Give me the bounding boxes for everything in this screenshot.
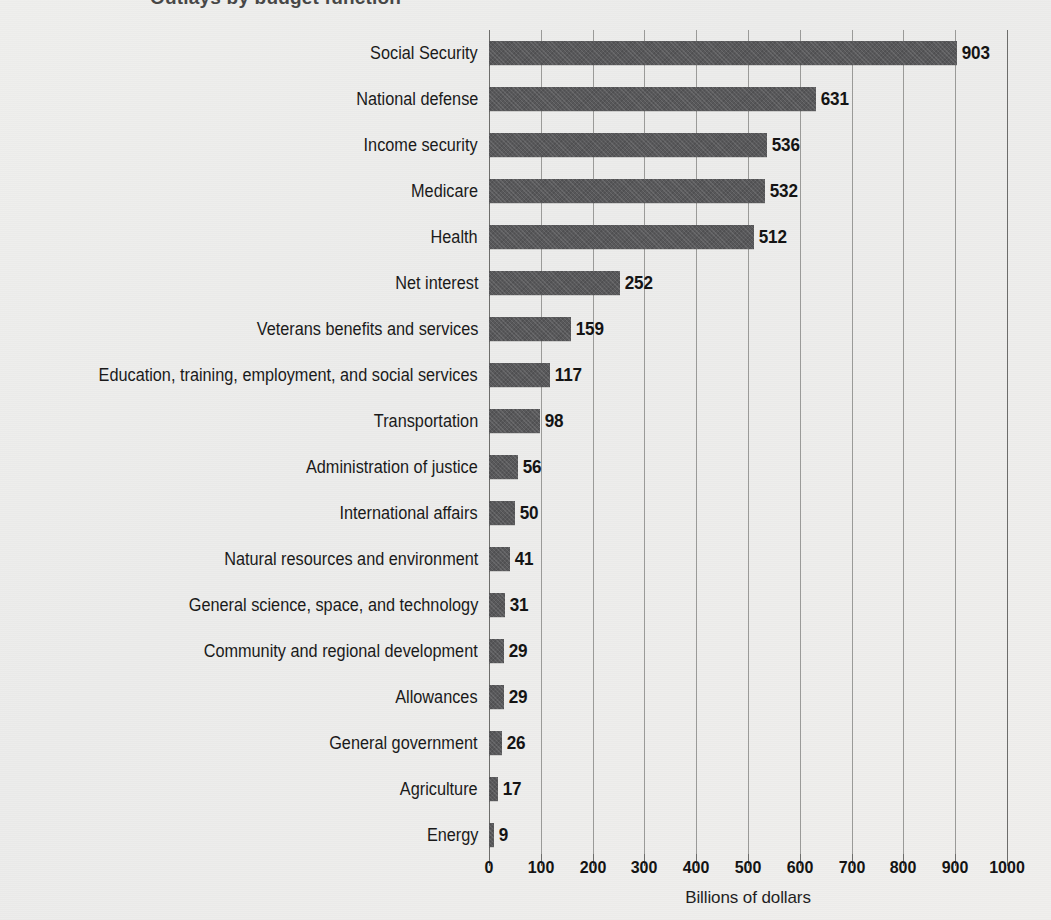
category-label-wrap: Natural resources and environment xyxy=(0,547,478,571)
chart-title: Outlays by budget function xyxy=(150,0,401,9)
category-label-wrap: Energy xyxy=(0,823,478,847)
bar xyxy=(489,317,571,341)
bar-value-label: 117 xyxy=(550,363,582,387)
category-label-wrap: General government xyxy=(0,731,478,755)
category-label-wrap: Health xyxy=(0,225,478,249)
category-label: Community and regional development xyxy=(204,641,478,662)
category-label: Natural resources and environment xyxy=(224,549,478,570)
x-tick-1000: 1000 xyxy=(989,858,1025,878)
bar xyxy=(489,225,754,249)
bar xyxy=(489,685,504,709)
bar-row: Education, training, employment, and soc… xyxy=(489,352,1007,398)
bar-value-label: 41 xyxy=(510,547,533,571)
plot-area: Social Security903National defense631Inc… xyxy=(489,30,1007,854)
category-label-wrap: General science, space, and technology xyxy=(0,593,478,617)
x-tick-800: 800 xyxy=(890,858,917,878)
bar-value-label: 9 xyxy=(494,823,508,847)
bar-value-label: 29 xyxy=(504,685,527,709)
bar xyxy=(489,87,816,111)
bar xyxy=(489,271,620,295)
bar-row: Community and regional development29 xyxy=(489,628,1007,674)
category-label: Medicare xyxy=(411,181,478,202)
x-tick-600: 600 xyxy=(786,858,813,878)
x-tick-200: 200 xyxy=(579,858,606,878)
bar xyxy=(489,501,515,525)
bar-value-label: 26 xyxy=(502,731,525,755)
category-label: Income security xyxy=(364,135,478,156)
x-axis-title: Billions of dollars xyxy=(489,888,1007,908)
bar xyxy=(489,547,510,571)
x-tick-100: 100 xyxy=(527,858,554,878)
bar-row: Social Security903 xyxy=(489,30,1007,76)
category-label: National defense xyxy=(356,89,478,110)
category-label-wrap: National defense xyxy=(0,87,478,111)
bar xyxy=(489,455,518,479)
category-label: Health xyxy=(431,227,478,248)
bar-row: Medicare532 xyxy=(489,168,1007,214)
category-label: Social Security xyxy=(370,43,478,64)
bar-value-label: 903 xyxy=(957,41,990,65)
bar xyxy=(489,639,504,663)
bar xyxy=(489,179,765,203)
category-label: Administration of justice xyxy=(306,457,478,478)
bar xyxy=(489,133,767,157)
bar xyxy=(489,823,494,847)
bar-value-label: 631 xyxy=(816,87,849,111)
category-label-wrap: Administration of justice xyxy=(0,455,478,479)
bar xyxy=(489,777,498,801)
category-label-wrap: International affairs xyxy=(0,501,478,525)
bar-row: National defense631 xyxy=(489,76,1007,122)
x-tick-400: 400 xyxy=(683,858,710,878)
bar xyxy=(489,731,502,755)
category-label-wrap: Education, training, employment, and soc… xyxy=(0,363,478,387)
bar-row: Administration of justice56 xyxy=(489,444,1007,490)
bar xyxy=(489,593,505,617)
bar-row: Natural resources and environment41 xyxy=(489,536,1007,582)
category-label: Education, training, employment, and soc… xyxy=(99,365,478,386)
bar-row: Energy9 xyxy=(489,812,1007,858)
bar xyxy=(489,363,550,387)
category-label-wrap: Allowances xyxy=(0,685,478,709)
category-label-wrap: Veterans benefits and services xyxy=(0,317,478,341)
bar-row: Income security536 xyxy=(489,122,1007,168)
category-label: Energy xyxy=(426,825,478,846)
category-label-wrap: Medicare xyxy=(0,179,478,203)
category-label-wrap: Income security xyxy=(0,133,478,157)
bar-value-label: 17 xyxy=(498,777,521,801)
x-tick-300: 300 xyxy=(631,858,658,878)
bar-value-label: 50 xyxy=(515,501,538,525)
category-label: Allowances xyxy=(396,687,478,708)
bar-row: Net interest252 xyxy=(489,260,1007,306)
bar-value-label: 56 xyxy=(518,455,541,479)
bar-value-label: 31 xyxy=(505,593,528,617)
bar-value-label: 512 xyxy=(754,225,787,249)
category-label-wrap: Social Security xyxy=(0,41,478,65)
bar-row: International affairs50 xyxy=(489,490,1007,536)
bar-row: Health512 xyxy=(489,214,1007,260)
bar-value-label: 536 xyxy=(767,133,800,157)
category-label: Agriculture xyxy=(400,779,478,800)
category-label: Veterans benefits and services xyxy=(256,319,478,340)
bar xyxy=(489,41,957,65)
gridline-1000 xyxy=(1007,30,1008,854)
bar-row: Allowances29 xyxy=(489,674,1007,720)
x-tick-500: 500 xyxy=(735,858,762,878)
x-tick-0: 0 xyxy=(485,858,494,878)
category-label-wrap: Community and regional development xyxy=(0,639,478,663)
bar-row: Transportation98 xyxy=(489,398,1007,444)
bar-row: General government26 xyxy=(489,720,1007,766)
category-label-wrap: Transportation xyxy=(0,409,478,433)
category-label: Net interest xyxy=(395,273,478,294)
bar xyxy=(489,409,540,433)
bar-row: Agriculture17 xyxy=(489,766,1007,812)
bar-value-label: 29 xyxy=(504,639,527,663)
category-label: General government xyxy=(330,733,478,754)
bar-value-label: 159 xyxy=(571,317,604,341)
bar-value-label: 532 xyxy=(765,179,798,203)
category-label: Transportation xyxy=(374,411,478,432)
x-tick-700: 700 xyxy=(838,858,865,878)
bar-row: General science, space, and technology31 xyxy=(489,582,1007,628)
bar-row: Veterans benefits and services159 xyxy=(489,306,1007,352)
x-tick-900: 900 xyxy=(942,858,969,878)
bar-chart: Outlays by budget function Social Securi… xyxy=(0,0,1051,920)
